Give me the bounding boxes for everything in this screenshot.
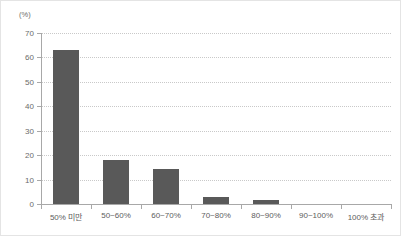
x-tick-mark <box>91 204 92 209</box>
bar-slot <box>91 33 141 204</box>
x-tick-label: 50% 미만 <box>50 211 82 222</box>
x-tick-label: 80~90% <box>251 211 281 220</box>
y-tick-label-60: 60 <box>4 53 34 62</box>
x-tick-label: 50~60% <box>101 211 131 220</box>
x-tick-mark <box>341 204 342 209</box>
x-tick-mark <box>391 204 392 209</box>
y-tick-mark-0 <box>37 204 41 205</box>
bars-layer <box>41 33 391 204</box>
y-tick-label-20: 20 <box>4 151 34 160</box>
y-tick-label-10: 10 <box>4 175 34 184</box>
y-tick-label-50: 50 <box>4 77 34 86</box>
x-tick-mark <box>41 204 42 209</box>
bar-slot <box>41 33 91 204</box>
x-tick-mark <box>141 204 142 209</box>
x-tick-mark <box>241 204 242 209</box>
x-tick-label: 90~100% <box>299 211 333 220</box>
bar-slot <box>191 33 241 204</box>
y-tick-label-40: 40 <box>4 102 34 111</box>
bar[interactable] <box>103 160 129 204</box>
y-tick-label-30: 30 <box>4 126 34 135</box>
x-tick-mark <box>191 204 192 209</box>
bar-slot <box>241 33 291 204</box>
bar[interactable] <box>203 197 229 204</box>
x-axis-tick-marks <box>41 204 391 210</box>
x-tick-label: 60~70% <box>151 211 181 220</box>
y-tick-mark-70 <box>37 33 41 34</box>
bar-slot <box>141 33 191 204</box>
y-tick-mark-20 <box>37 155 41 156</box>
x-tick-mark <box>291 204 292 209</box>
y-tick-mark-30 <box>37 131 41 132</box>
y-tick-mark-10 <box>37 180 41 181</box>
x-axis-tick-labels: 50% 미만50~60%60~70%70~80%80~90%90~100%100… <box>41 211 391 227</box>
y-axis-tick-labels: 010203040506070 <box>1 1 34 236</box>
y-tick-mark-40 <box>37 106 41 107</box>
y-tick-mark-60 <box>37 57 41 58</box>
y-tick-label-70: 70 <box>4 29 34 38</box>
bar[interactable] <box>53 50 79 204</box>
bar-slot <box>341 33 391 204</box>
bar-chart-figure: (%) 010203040506070 50% 미만50~60%60~70%70… <box>0 0 401 236</box>
y-tick-label-0: 0 <box>4 200 34 209</box>
y-tick-mark-50 <box>37 82 41 83</box>
x-tick-label: 100% 초과 <box>348 211 385 222</box>
x-tick-label: 70~80% <box>201 211 231 220</box>
bar-slot <box>291 33 341 204</box>
bar[interactable] <box>153 169 179 204</box>
